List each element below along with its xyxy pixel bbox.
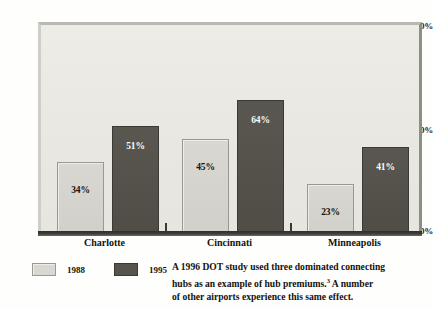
bar-chart-figure: 100% 50% 0% 34% 51% 45% 64% 23% 41% (0, 0, 433, 309)
x-axis-label-minneapolis: Minneapolis (292, 237, 417, 248)
x-axis-label-minneapolis-text: Minneapolis (328, 237, 381, 248)
legend-swatch-1988-icon (32, 263, 56, 276)
caption-line-2-a: hubs as an example of hub premiums. (172, 278, 327, 289)
x-axis-label-cincinnati: Cincinnati (167, 237, 292, 248)
bar-value-minneapolis-1995: 41% (363, 162, 408, 172)
bar-charlotte-1995: 51% (112, 126, 159, 232)
x-axis-label-charlotte-text: Charlotte (84, 237, 125, 248)
x-axis-baseline (38, 231, 422, 236)
caption-line-1: A 1996 DOT study used three dominated co… (172, 261, 385, 272)
bar-minneapolis-1988: 23% (307, 184, 354, 232)
x-axis-label-cincinnati-text: Cincinnati (207, 237, 252, 248)
legend-item-1995: 1995 (114, 263, 167, 276)
bar-cincinnati-1988: 45% (182, 139, 229, 232)
bar-value-charlotte-1988: 34% (58, 185, 103, 195)
legend-swatch-1995-icon (114, 263, 138, 276)
x-axis-label-charlotte: Charlotte (42, 237, 167, 248)
x-axis-tick-1 (165, 223, 167, 232)
chart-caption: A 1996 DOT study used three dominated co… (172, 260, 427, 304)
bar-minneapolis-1995: 41% (362, 147, 409, 232)
legend-label-1995: 1995 (149, 265, 167, 275)
caption-line-2-b: A number (330, 278, 373, 289)
bar-charlotte-1988: 34% (57, 162, 104, 232)
legend-item-1988: 1988 (32, 263, 85, 276)
bar-cincinnati-1995: 64% (237, 100, 284, 232)
bar-value-charlotte-1995: 51% (113, 141, 158, 151)
legend-label-1988: 1988 (67, 265, 85, 275)
bar-value-minneapolis-1988: 23% (308, 207, 353, 217)
bar-value-cincinnati-1995: 64% (238, 115, 283, 125)
x-axis-tick-2 (290, 223, 292, 232)
caption-line-3: of other airports experience this same e… (172, 291, 353, 302)
plot-area: 34% 51% 45% 64% 23% 41% (41, 25, 419, 232)
bar-value-cincinnati-1988: 45% (183, 162, 228, 172)
